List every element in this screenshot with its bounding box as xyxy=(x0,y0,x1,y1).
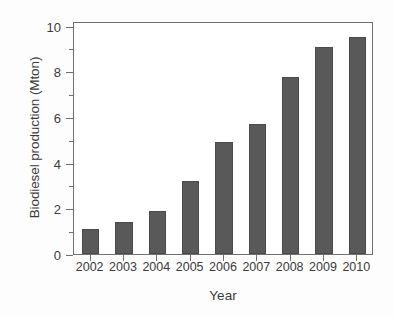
chart-figure: Biodiesel production (Mton) 0246810 2002… xyxy=(0,0,394,317)
y-tick-major xyxy=(66,27,73,28)
bar-2007 xyxy=(249,124,266,254)
plot-area xyxy=(73,22,373,255)
y-tick-minor xyxy=(69,232,73,233)
x-tick-label-2010: 2010 xyxy=(333,260,379,274)
bar-2010 xyxy=(349,37,366,254)
y-tick-minor xyxy=(69,49,73,50)
bar-2004 xyxy=(149,211,166,254)
bar-2009 xyxy=(315,47,332,254)
bar-2008 xyxy=(282,77,299,254)
bar-2003 xyxy=(115,222,132,254)
y-tick-major xyxy=(66,72,73,73)
bar-2002 xyxy=(82,229,99,254)
y-tick-major xyxy=(66,209,73,210)
y-tick-label: 4 xyxy=(21,156,61,171)
bar-2006 xyxy=(215,142,232,254)
y-tick-major xyxy=(66,255,73,256)
y-tick-major xyxy=(66,118,73,119)
y-tick-label: 6 xyxy=(21,110,61,125)
y-tick-label: 10 xyxy=(21,19,61,34)
y-tick-major xyxy=(66,164,73,165)
bar-series xyxy=(74,23,372,254)
y-tick-minor xyxy=(69,186,73,187)
y-axis-title: Biodiesel production (Mton) xyxy=(27,8,42,268)
y-tick-label: 0 xyxy=(21,248,61,263)
y-tick-label: 8 xyxy=(21,65,61,80)
y-tick-label: 2 xyxy=(21,202,61,217)
y-tick-minor xyxy=(69,141,73,142)
bar-2005 xyxy=(182,181,199,254)
x-axis-title: Year xyxy=(73,288,373,303)
y-tick-minor xyxy=(69,95,73,96)
